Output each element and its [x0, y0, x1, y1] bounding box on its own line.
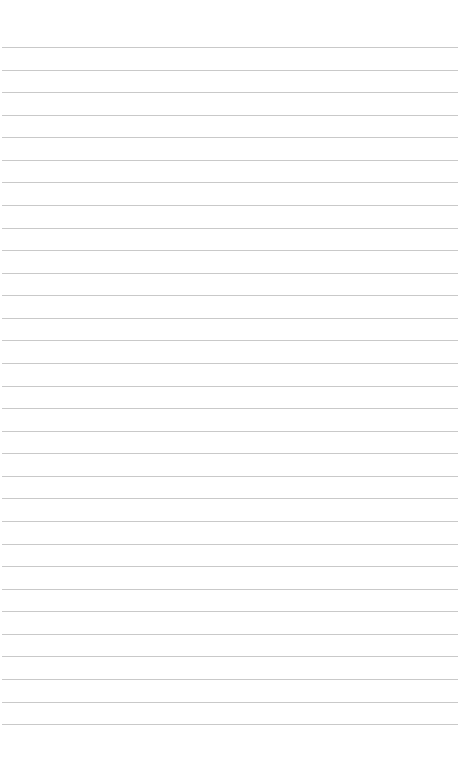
- ruled-line: [2, 521, 458, 522]
- ruled-line: [2, 340, 458, 341]
- ruled-line: [2, 205, 458, 206]
- ruled-line: [2, 498, 458, 499]
- ruled-line: [2, 634, 458, 635]
- ruled-line: [2, 453, 458, 454]
- ruled-line: [2, 566, 458, 567]
- ruled-line: [2, 250, 458, 251]
- ruled-line: [2, 679, 458, 680]
- ruled-line: [2, 431, 458, 432]
- ruled-line: [2, 544, 458, 545]
- ruled-line: [2, 47, 458, 48]
- ruled-line: [2, 137, 458, 138]
- ruled-line: [2, 724, 458, 725]
- ruled-line: [2, 702, 458, 703]
- ruled-line: [2, 611, 458, 612]
- ruled-line: [2, 408, 458, 409]
- lined-paper-page: [0, 0, 460, 779]
- ruled-line: [2, 476, 458, 477]
- ruled-line: [2, 386, 458, 387]
- ruled-line: [2, 228, 458, 229]
- ruled-line: [2, 295, 458, 296]
- ruled-line: [2, 115, 458, 116]
- ruled-line: [2, 70, 458, 71]
- ruled-line: [2, 363, 458, 364]
- ruled-line: [2, 182, 458, 183]
- ruled-line: [2, 656, 458, 657]
- ruled-line: [2, 318, 458, 319]
- ruled-line: [2, 273, 458, 274]
- ruled-line: [2, 589, 458, 590]
- ruled-line: [2, 160, 458, 161]
- ruled-line: [2, 92, 458, 93]
